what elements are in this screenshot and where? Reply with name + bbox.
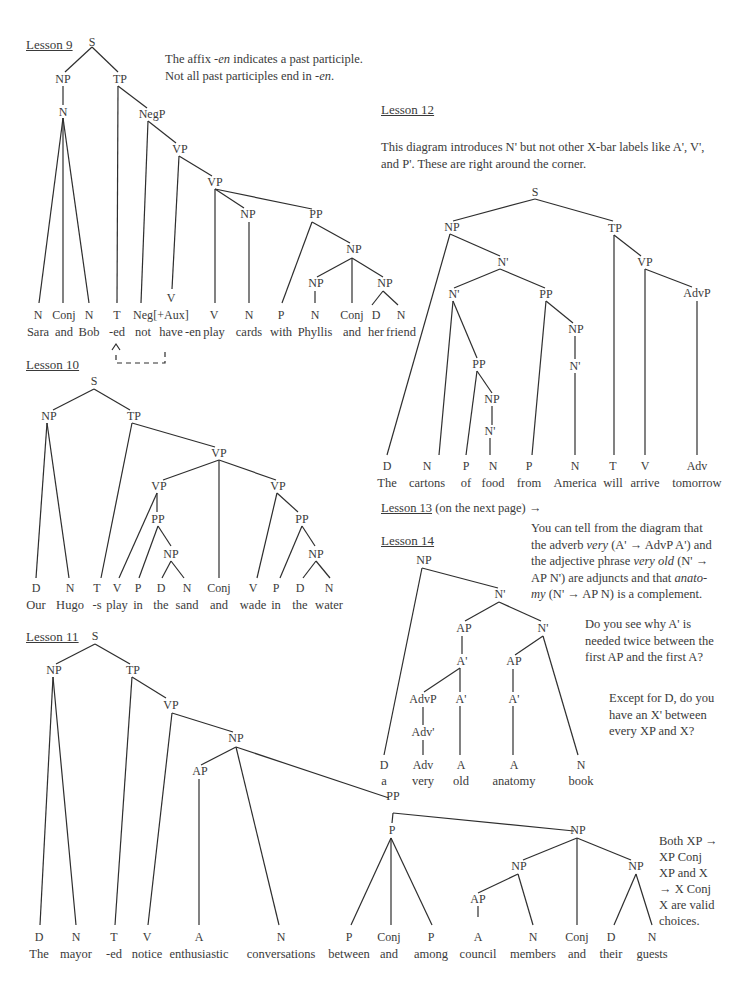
leaf-word: Phyllis [298, 325, 333, 339]
leaf-category: V [641, 459, 650, 473]
leaf-category: N [277, 930, 286, 944]
leaf-word: Bob [79, 325, 100, 339]
leaf-category: N [183, 581, 192, 595]
leaf-word: -ed [109, 325, 126, 339]
leaf-category: Adv [413, 758, 434, 772]
leaf-category: P [346, 930, 353, 944]
leaf-word: members [510, 947, 556, 961]
leaf-word: Our [26, 598, 46, 612]
leaf-word: old [453, 774, 470, 788]
tree-node: PP [386, 789, 400, 803]
leaf-category: N [648, 930, 657, 944]
leaf-category: D [157, 581, 166, 595]
leaf-category: T [110, 930, 118, 944]
leaf-word: friend [386, 325, 417, 339]
leaf-word: and [568, 947, 587, 961]
leaf-category: N [577, 758, 586, 772]
leaf-word: water [315, 598, 344, 612]
tree-node: NP [568, 322, 584, 336]
leaf-word: and [380, 947, 399, 961]
leaf-category: N [529, 930, 538, 944]
tree-node: AdvP [683, 286, 711, 300]
tree-node: NP [46, 663, 62, 677]
leaf-word: will [603, 476, 623, 490]
leaf-word: Sara [27, 325, 50, 339]
leaf-word: mayor [60, 947, 93, 961]
leaf-word: their [600, 947, 624, 961]
leaf-category: Conj [52, 308, 75, 322]
leaf-word: in [271, 598, 281, 612]
leaf-category: Adv [687, 459, 708, 473]
tree-node: S [89, 35, 96, 49]
tree-diagrams: SNPTPNNegPVPVPNPPPNPNPNPVNSaraConjandNBo… [0, 0, 744, 982]
tree-node: N' [538, 621, 549, 635]
leaf-word: guests [636, 947, 667, 961]
tree-node: PP [472, 357, 486, 371]
tree-node: S [532, 185, 539, 199]
tree-node: NP [308, 547, 324, 561]
leaf-word: and [55, 325, 74, 339]
leaf-category: D [296, 581, 305, 595]
tree-node: NP [55, 72, 71, 86]
tree-node: NegP [139, 107, 166, 121]
tree-node: P [389, 823, 396, 837]
lesson-10-edges [36, 389, 330, 578]
tree-node: AP [470, 892, 486, 906]
tree-node: N [59, 105, 68, 119]
tree-node: AP [456, 621, 472, 635]
tree-node: PP [309, 207, 323, 221]
leaf-category: N [66, 581, 75, 595]
leaf-word: a [381, 774, 387, 788]
tree-node: VP [151, 479, 167, 493]
tree-node: NP [570, 823, 586, 837]
tree-node: VP [207, 175, 223, 189]
leaf-category: D [607, 930, 616, 944]
tree-node: NP [41, 409, 57, 423]
tree-node: NP [163, 547, 179, 561]
leaf-category: T [93, 581, 101, 595]
leaf-category: D [372, 308, 381, 322]
leaf-word: sand [176, 598, 200, 612]
tree-node: A' [456, 692, 467, 706]
leaf-word: her [368, 325, 385, 339]
leaf-word: The [29, 947, 49, 961]
leaf-category: N [85, 308, 94, 322]
leaf-category: P [526, 459, 533, 473]
tree-node: Adv' [412, 725, 435, 739]
tree-node: TP [126, 663, 140, 677]
leaf-word: America [553, 476, 596, 490]
tree-node: PP [295, 512, 309, 526]
leaf-category: N [397, 308, 406, 322]
leaf-category: N [311, 308, 320, 322]
tree-node: VP [211, 446, 227, 460]
leaf-category: N [72, 930, 81, 944]
leaf-word: -ed [106, 947, 123, 961]
tree-node: NP [377, 276, 393, 290]
leaf-category: P [273, 581, 280, 595]
leaf-category: N [423, 459, 432, 473]
leaf-word: very [412, 774, 435, 788]
tree-node: VP [270, 479, 286, 493]
leaf-category: [+Aux] [153, 308, 188, 322]
leaf-category: N [34, 308, 43, 322]
leaf-category: D [380, 758, 389, 772]
leaf-word: anatomy [492, 774, 536, 788]
tree-node: AdvP [409, 692, 437, 706]
node-labels: SNPTPNNegPVPVPNPPPNPNPNPVNSaraConjandNBo… [26, 35, 721, 961]
tree-node: A' [457, 654, 468, 668]
tree-node: N' [570, 359, 581, 373]
leaf-word: Hugo [56, 598, 84, 612]
leaf-category: P [428, 930, 435, 944]
leaf-word: and [210, 598, 229, 612]
leaf-word: play [106, 598, 128, 612]
tree-node: N' [498, 255, 509, 269]
leaf-word: of [461, 476, 472, 490]
leaf-word: wade [240, 598, 267, 612]
lesson-11-edges [40, 644, 652, 925]
tree-node: S [91, 374, 98, 388]
tree-node: PP [539, 287, 553, 301]
tree-node: TP [113, 72, 127, 86]
leaf-word: cards [236, 325, 263, 339]
leaf-category: A [510, 758, 519, 772]
tree-node: VP [163, 698, 179, 712]
